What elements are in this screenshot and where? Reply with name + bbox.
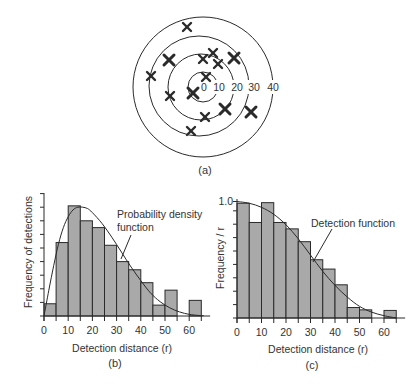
x-tick-label: 20 xyxy=(280,326,292,338)
panel-label-a: (a) xyxy=(198,164,211,176)
x-tick-label: 40 xyxy=(135,324,147,336)
histogram-bar xyxy=(249,222,261,318)
x-tick-label: 50 xyxy=(159,324,171,336)
x-tick-labels-b: 0102030405060 xyxy=(41,324,195,336)
histogram-bar xyxy=(189,300,201,316)
annotation-pdf-line2: function xyxy=(117,221,154,233)
histogram-bar xyxy=(274,222,286,318)
x-tick-labels-c: 0102030405060 xyxy=(234,326,390,338)
histogram-bar xyxy=(92,228,104,316)
detection-marker xyxy=(164,55,174,65)
annotation-pdf-line1: Probability density xyxy=(117,208,203,220)
histogram-bar xyxy=(323,269,335,318)
histogram-bar xyxy=(129,270,141,316)
x-tick-label: 10 xyxy=(62,324,74,336)
annotation-detection-function: Detection function xyxy=(311,217,395,229)
histogram-bar xyxy=(80,221,92,316)
y-axis-title-b: Frequency of detections xyxy=(22,196,34,308)
histogram-bar xyxy=(335,285,347,318)
histogram-bar xyxy=(105,245,117,316)
ring-label-10: 10 xyxy=(213,81,225,93)
x-tick-label: 30 xyxy=(305,326,317,338)
x-tick-label: 50 xyxy=(354,326,366,338)
detection-marker xyxy=(202,73,210,81)
histogram-bar xyxy=(262,203,274,318)
x-tick-label: 40 xyxy=(329,326,341,338)
x-axis-title-c: Detection distance (r) xyxy=(268,343,368,355)
histogram-bar xyxy=(153,305,165,316)
detection-marker xyxy=(183,23,191,31)
y-axis-title-c: Frequency / r xyxy=(214,227,226,289)
histogram-c: 0102030405060 1.0 Detection function Det… xyxy=(214,195,405,371)
histogram-bar xyxy=(141,283,153,316)
x-tick-label: 20 xyxy=(87,324,99,336)
x-tick-label: 10 xyxy=(256,326,268,338)
histogram-bar xyxy=(165,290,177,316)
x-tick-label: 0 xyxy=(234,326,240,338)
histogram-b: 0102030405060 Probability density functi… xyxy=(22,193,210,369)
histogram-bar xyxy=(68,206,80,316)
x-axis-title-b: Detection distance (r) xyxy=(72,342,172,354)
figure-canvas: 0 10 20 30 40 (a) 0102030405060 Probabil… xyxy=(0,0,419,385)
detection-marker xyxy=(199,55,207,63)
detection-markers xyxy=(147,23,256,135)
x-tick-label: 30 xyxy=(111,324,123,336)
ring-label-0: 0 xyxy=(201,81,207,93)
histogram-bar xyxy=(56,243,68,316)
histogram-bar xyxy=(347,308,359,318)
panel-label-c: (c) xyxy=(306,359,319,371)
detection-marker xyxy=(187,127,195,135)
ring-label-20: 20 xyxy=(231,81,243,93)
x-tick-label: 60 xyxy=(183,324,195,336)
annotation-pdf-leader xyxy=(121,235,131,259)
panel-label-b: (b) xyxy=(108,357,121,369)
ring-label-40: 40 xyxy=(267,81,279,93)
detection-marker xyxy=(229,53,239,63)
detection-marker xyxy=(220,104,230,114)
x-tick-label: 0 xyxy=(41,324,47,336)
histogram-bar xyxy=(286,229,298,318)
target-diagram: 0 10 20 30 40 (a) xyxy=(133,17,284,176)
histogram-bar xyxy=(237,203,249,318)
detection-marker xyxy=(214,60,222,68)
annotation-detection-leader xyxy=(313,229,332,262)
ring-label-30: 30 xyxy=(248,81,260,93)
y-tick-label-1-0: 1.0 xyxy=(218,195,233,207)
histogram-bar xyxy=(117,262,129,316)
x-tick-label: 60 xyxy=(378,326,390,338)
detection-marker xyxy=(246,107,256,117)
